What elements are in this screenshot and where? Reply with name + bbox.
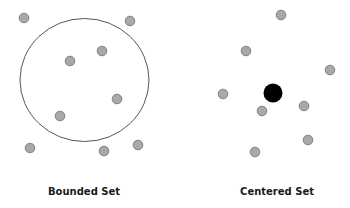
- boundary-circle: [20, 19, 149, 142]
- bounded-member-dot: [133, 140, 143, 150]
- bounded-member-dot: [25, 143, 35, 153]
- bounded-set-label: Bounded Set: [48, 186, 120, 197]
- bounded-member-dot: [125, 16, 135, 26]
- bounded-member-dot: [99, 146, 109, 156]
- bounded-member-dot: [19, 13, 29, 23]
- centered-member-dot: [257, 106, 267, 116]
- diagram-canvas: [0, 0, 350, 208]
- centered-member-dot: [250, 147, 260, 157]
- centered-member-dot: [276, 10, 286, 20]
- bounded-member-dot: [55, 111, 65, 121]
- bounded-member-dot: [65, 56, 75, 66]
- centered-set-label: Centered Set: [240, 186, 314, 197]
- bounded-member-dot: [97, 46, 107, 56]
- centered-member-dot: [325, 65, 335, 75]
- centered-set-diagram: [218, 10, 335, 157]
- bounded-member-dot: [112, 94, 122, 104]
- centered-member-dot: [303, 135, 313, 145]
- centered-member-dot: [241, 46, 251, 56]
- centered-member-dot: [299, 101, 309, 111]
- centered-member-dot: [218, 89, 228, 99]
- bounded-set-diagram: [19, 13, 149, 156]
- center-point: [264, 84, 283, 103]
